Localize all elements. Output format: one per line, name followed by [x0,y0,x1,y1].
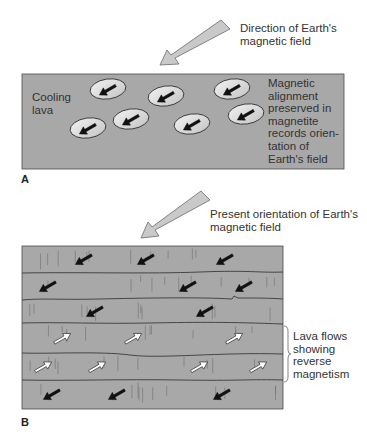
panel-a-letter: A [21,173,29,185]
earth-field-arrow-b [141,191,210,238]
field-direction-label-a: Direction of Earth's magnetic field [240,22,337,47]
reverse-magnetism-label: Lava flows showing reverse magnetism [293,330,349,380]
magnetite-alignment-label: Magnetic alignment preserved in magnetit… [268,77,339,165]
field-direction-label-b: Present orientation of Earth's magnetic … [210,208,358,233]
lava-flow-stack [22,246,283,409]
earth-field-arrow-a [160,20,230,65]
panel-b-letter: B [21,416,29,428]
cooling-lava-label: Cooling lava [32,91,71,116]
reverse-bracket [284,326,291,382]
